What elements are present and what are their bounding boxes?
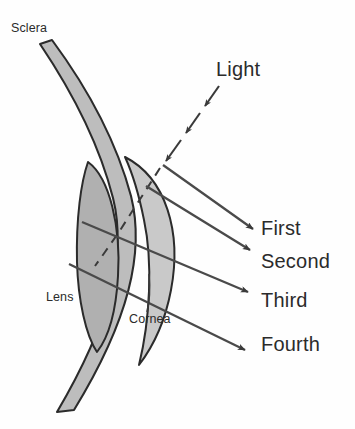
label-first-purkinje: First [261, 217, 301, 240]
label-sclera: Sclera [11, 21, 47, 35]
label-second-purkinje: Second [261, 250, 330, 273]
label-light: Light [216, 58, 260, 81]
eye-purkinje-diagram: Sclera Lens Cornea Light First Second Th… [0, 0, 355, 429]
label-third-purkinje: Third [261, 289, 308, 312]
ray-first [163, 165, 253, 229]
label-cornea: Cornea [129, 312, 171, 326]
diagram-canvas [0, 0, 355, 429]
label-lens: Lens [46, 290, 74, 304]
label-fourth-purkinje: Fourth [261, 333, 320, 356]
